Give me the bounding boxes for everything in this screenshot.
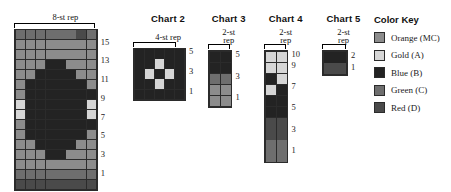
chart-cell (165, 49, 174, 58)
chart-cell (165, 90, 174, 99)
chart-cell (87, 170, 96, 179)
chart-cell (56, 100, 65, 109)
chart-cell (266, 107, 276, 117)
chart-cell (46, 130, 55, 139)
color-key-swatch (374, 32, 385, 43)
chart-row-number: 1 (101, 169, 105, 178)
chart-cell (16, 40, 25, 49)
chart-row-number: 3 (235, 71, 239, 80)
chart-cell (145, 79, 154, 88)
chart-cell (175, 79, 184, 88)
chart-4-repeat-label: 2-st rep (264, 28, 307, 44)
chart-cell (266, 96, 276, 106)
chart-cell (135, 69, 144, 78)
chart-cell (36, 90, 45, 99)
chart-cell (145, 90, 154, 99)
chart-4-panel: Chart 4 2-st rep 1097531 (264, 13, 307, 163)
chart-cell (277, 96, 287, 106)
chart-cell (87, 160, 96, 169)
chart-cell (36, 80, 45, 89)
chart-cell (36, 30, 45, 39)
chart-cell (36, 110, 45, 119)
color-key-label: Green (C) (391, 85, 427, 95)
chart-cell (46, 70, 55, 79)
chart-cell (87, 130, 96, 139)
chart-cell (16, 90, 25, 99)
chart-cell (26, 70, 35, 79)
chart-cell (56, 140, 65, 149)
chart-2-panel: Chart 2 4-st rep 531 (133, 13, 203, 101)
chart-2-grid[interactable] (133, 48, 186, 101)
chart-cell (46, 100, 55, 109)
color-key-item: Orange (MC) (374, 32, 440, 43)
chart-cell (56, 50, 65, 59)
chart-cell (36, 170, 45, 179)
chart-1-repeat-label: 8-st rep (14, 13, 117, 22)
chart-cell (46, 110, 55, 119)
chart-cell (36, 140, 45, 149)
chart-cell (46, 60, 55, 69)
chart-1-panel: 8-st rep 15131197531 (14, 13, 117, 191)
chart-cell (36, 40, 45, 49)
chart-4-grid[interactable] (264, 50, 288, 163)
chart-cell (277, 151, 287, 161)
chart-row-number: 3 (291, 124, 295, 133)
chart-cell (277, 85, 287, 95)
color-key-swatch (374, 102, 385, 113)
chart-cell (87, 30, 96, 39)
chart-row-number: 3 (101, 150, 105, 159)
color-key-list: Orange (MC)Gold (A)Blue (B)Green (C)Red … (374, 32, 440, 113)
chart-cell (66, 60, 75, 69)
chart-cell (56, 110, 65, 119)
color-key-swatch (374, 67, 385, 78)
chart-2-bracket-line (133, 42, 176, 47)
chart-cell (76, 110, 85, 119)
chart-cell (26, 130, 35, 139)
chart-cell (16, 100, 25, 109)
chart-3-repeat-label: 2-st rep (208, 28, 249, 44)
chart-cell (155, 69, 164, 78)
chart-cell (46, 40, 55, 49)
chart-1-grid[interactable] (14, 29, 98, 191)
chart-cell (145, 69, 154, 78)
chart-row-number: 5 (235, 50, 239, 59)
chart-cell (16, 110, 25, 119)
chart-3-bracket-line (208, 44, 230, 49)
chart-3-grid[interactable] (208, 50, 232, 108)
chart-cell (87, 50, 96, 59)
chart-2-grid-wrap: 531 (133, 47, 203, 101)
chart-5-grid[interactable] (322, 50, 348, 76)
chart-cell (221, 63, 231, 73)
chart-cell (145, 59, 154, 68)
chart-cell (155, 79, 164, 88)
chart-cell (277, 63, 287, 73)
chart-cell (324, 52, 335, 63)
color-key-item: Red (D) (374, 102, 440, 113)
chart-cell (175, 90, 184, 99)
chart-cell (36, 70, 45, 79)
chart-cell (266, 118, 276, 128)
chart-4-title: Chart 4 (264, 13, 307, 24)
color-key-swatch (374, 85, 385, 96)
chart-cell (16, 140, 25, 149)
chart-row-number: 2 (351, 51, 355, 60)
chart-cell (56, 170, 65, 179)
chart-cell (135, 49, 144, 58)
chart-row-number: 1 (235, 92, 239, 101)
chart-cell (66, 160, 75, 169)
chart-5-bracket-line (322, 44, 346, 49)
chart-cell (56, 80, 65, 89)
chart-cell (66, 180, 75, 189)
chart-cell (46, 30, 55, 39)
chart-cell (266, 52, 276, 62)
chart-row-number: 1 (351, 63, 355, 72)
chart-cell (16, 160, 25, 169)
chart-row-number: 5 (189, 47, 193, 56)
chart-row-number: 5 (291, 103, 295, 112)
chart-cell (46, 180, 55, 189)
chart-cell (210, 74, 220, 84)
chart-cell (36, 60, 45, 69)
chart-cell (16, 30, 25, 39)
chart-3-panel: Chart 3 2-st rep 531 (208, 13, 249, 108)
chart-cell (56, 30, 65, 39)
